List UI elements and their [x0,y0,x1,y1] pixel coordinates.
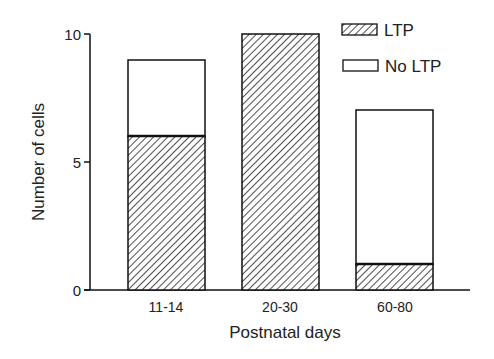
y-tick-5: 5 [73,154,81,171]
x-axis-title: Postnatal days [229,323,341,342]
legend-swatch-ltp [342,24,377,35]
bar-ltp-60-80 [356,264,433,290]
legend: LTP No LTP [342,21,441,76]
bar-no-ltp-11-14 [128,60,205,137]
x-tick-11-14: 11-14 [149,299,184,315]
bar-group-60-80 [356,110,433,290]
bar-chart: 10 5 0 11-14 20-30 60-80 Postnatal days … [0,0,494,359]
y-axis-title: Number of cells [29,103,48,221]
legend-label-ltp: LTP [384,21,414,40]
bar-ltp-11-14 [128,136,205,290]
y-tick-0: 0 [73,282,81,299]
bar-no-ltp-60-80 [356,110,433,265]
legend-swatch-no-ltp [343,60,378,71]
x-tick-20-30: 20-30 [262,299,298,315]
legend-label-no-ltp: No LTP [385,57,441,76]
bar-ltp-20-30 [242,34,319,290]
y-tick-10: 10 [64,26,81,43]
bar-group-11-14 [128,60,205,290]
bar-group-20-30 [242,34,319,290]
x-tick-60-80: 60-80 [377,299,413,315]
y-axis: 10 5 0 [64,26,90,299]
